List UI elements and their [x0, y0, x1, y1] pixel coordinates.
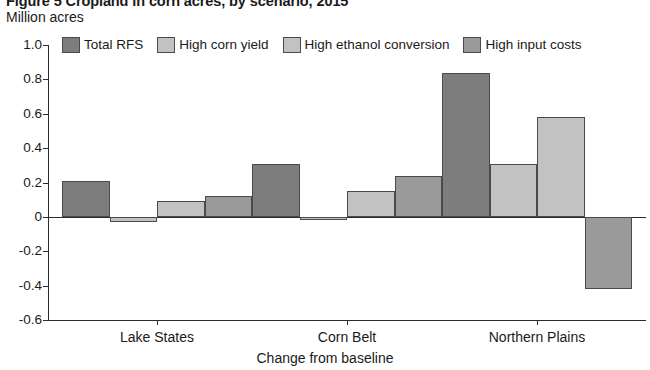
- y-axis-tick-mark: [43, 148, 48, 149]
- y-axis-tick-label: 0: [34, 210, 42, 224]
- bar: [490, 164, 538, 217]
- y-axis-tick-label: 0.4: [23, 141, 42, 155]
- x-axis-tick-mark: [157, 320, 158, 325]
- bar: [252, 164, 300, 217]
- y-axis-tick-mark: [43, 217, 48, 218]
- y-axis-tick-mark: [43, 183, 48, 184]
- y-axis-tick-label: -0.2: [19, 244, 42, 258]
- x-axis-category-label: Northern Plains: [489, 329, 586, 345]
- x-axis-tick-mark: [537, 320, 538, 325]
- y-axis-tick-mark: [43, 320, 48, 321]
- y-axis-tick-label: 0.2: [23, 176, 42, 190]
- x-axis-tick-mark: [347, 320, 348, 325]
- bar: [442, 73, 490, 217]
- y-axis-tick-mark: [43, 251, 48, 252]
- y-axis-tick-label: 0.8: [23, 72, 42, 86]
- bar: [585, 217, 633, 289]
- y-axis-line: [48, 45, 49, 321]
- y-axis-tick-label: 0.6: [23, 107, 42, 121]
- y-axis-tick-mark: [43, 45, 48, 46]
- bar: [62, 181, 110, 217]
- y-axis-tick-mark: [43, 286, 48, 287]
- y-axis-tick-labels: 1.00.80.60.40.20-0.2-0.4-0.6: [0, 45, 42, 321]
- figure-subtitle: Million acres: [6, 9, 84, 25]
- x-axis-category-label: Corn Belt: [318, 329, 376, 345]
- bar: [395, 176, 443, 217]
- plot-area: [48, 45, 646, 320]
- bar: [157, 201, 205, 216]
- y-axis-tick-mark: [43, 79, 48, 80]
- figure-title: Figure 5 Cropland in corn acres, by scen…: [6, 0, 348, 9]
- x-axis-title: Change from baseline: [0, 350, 650, 366]
- bar: [300, 217, 348, 220]
- bar: [205, 196, 253, 217]
- bar: [110, 217, 158, 222]
- x-axis-category-label: Lake States: [120, 329, 194, 345]
- y-axis-tick-label: -0.4: [19, 279, 42, 293]
- y-axis-tick-mark: [43, 114, 48, 115]
- bar: [347, 191, 395, 217]
- y-axis-tick-label: -0.6: [19, 313, 42, 327]
- chart-figure: Figure 5 Cropland in corn acres, by scen…: [0, 0, 650, 370]
- y-axis-tick-label: 1.0: [23, 38, 42, 52]
- bar: [537, 117, 585, 217]
